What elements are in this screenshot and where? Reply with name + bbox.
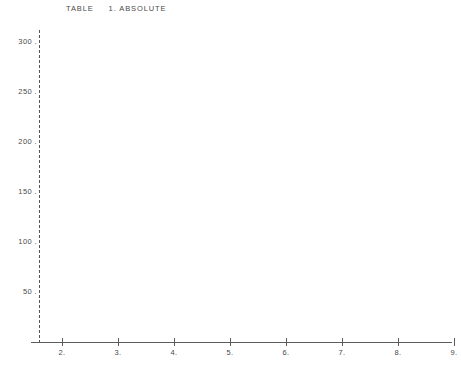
x-axis-tick-mark [230, 338, 231, 346]
x-axis-tick-mark [454, 338, 455, 346]
x-axis-tick-mark [286, 338, 287, 346]
x-axis-tick-label: 6. [276, 348, 296, 357]
x-axis-tick-mark [118, 338, 119, 346]
x-axis-tick-label: 7. [332, 348, 352, 357]
x-axis-tick-label: 5. [220, 348, 240, 357]
x-axis-tick-mark [62, 338, 63, 346]
x-axis-tick-label: 3. [108, 348, 128, 357]
x-axis-tick-mark [342, 338, 343, 346]
x-axis-tick-mark [398, 338, 399, 346]
x-axis-tick-label: 2. [52, 348, 72, 357]
x-axis-tick-label: 8. [388, 348, 408, 357]
x-axis-tick-label: 9. [444, 348, 461, 357]
x-axis-tick-label: 4. [164, 348, 184, 357]
x-axis-tick-mark [174, 338, 175, 346]
